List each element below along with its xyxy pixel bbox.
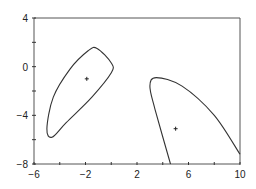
contour-lines [47,47,240,164]
contour-chart: −6−22610 40−4−8 [0,0,256,189]
plot-frame [34,18,240,164]
x-tick-label: −6 [28,169,40,180]
y-tick-label: −4 [17,110,29,121]
x-tick-labels: −6−22610 [28,169,246,180]
x-tick-label: 2 [134,169,140,180]
x-tick-label: 6 [186,169,192,180]
y-tick-label: 0 [22,62,28,73]
y-tick-labels: 40−4−8 [17,13,29,170]
y-tick-label: −8 [17,159,29,170]
contour-1-line [47,47,113,137]
x-tick-label: −2 [80,169,92,180]
contour-2-line [150,78,240,164]
x-tick-label: 10 [234,169,246,180]
center-markers [85,77,178,131]
y-tick-label: 4 [22,13,28,24]
